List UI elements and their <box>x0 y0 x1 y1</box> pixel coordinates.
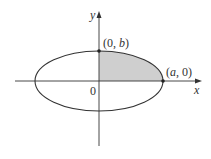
point-a-0 <box>161 79 165 83</box>
y-axis-label: y <box>89 8 96 22</box>
origin-label: 0 <box>90 84 96 98</box>
point-top-label: (0, b) <box>103 36 129 50</box>
y-axis-arrow-icon <box>97 11 102 18</box>
point-0-b <box>97 49 101 53</box>
ellipse-diagram: y x 0 (0, b) (a, 0) <box>0 0 211 159</box>
point-right-label: (a, 0) <box>166 65 192 79</box>
x-axis-label: x <box>193 83 200 97</box>
